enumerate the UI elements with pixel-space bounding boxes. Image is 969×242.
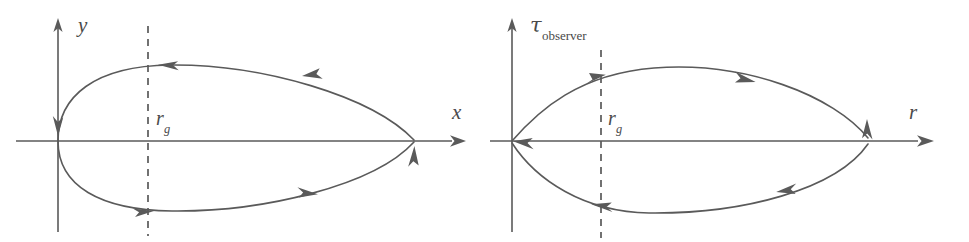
right-tau-axis-label: τobserver: [530, 13, 586, 41]
left-gravitational-radius-label: rg: [156, 107, 170, 134]
left-x-axis-arrowhead: [450, 135, 466, 147]
left-curve-direction-arrows: [53, 60, 420, 217]
left-x-axis-label: x: [452, 100, 461, 125]
right-trajectory-curve: [512, 67, 868, 213]
figure-container: y x rg: [0, 0, 969, 242]
left-panel: [0, 0, 485, 242]
right-rg-base: r: [608, 107, 616, 129]
left-y-axis-label: y: [78, 13, 87, 38]
left-trajectory-curve: [58, 65, 414, 211]
left-rg-base: r: [156, 107, 164, 129]
right-tau-subscript: observer: [542, 28, 587, 43]
left-rg-subscript: g: [164, 122, 170, 136]
right-r-axis-arrowhead: [917, 135, 934, 147]
right-panel-wrapper: τobserver r rg: [484, 0, 969, 242]
left-x-axis: [16, 135, 466, 147]
right-rg-subscript: g: [616, 122, 622, 136]
right-gravitational-radius-label: rg: [608, 107, 622, 134]
right-r-axis-label: r: [909, 100, 917, 125]
right-tau-axis: [507, 18, 516, 232]
right-tau-symbol: τ: [530, 13, 542, 37]
